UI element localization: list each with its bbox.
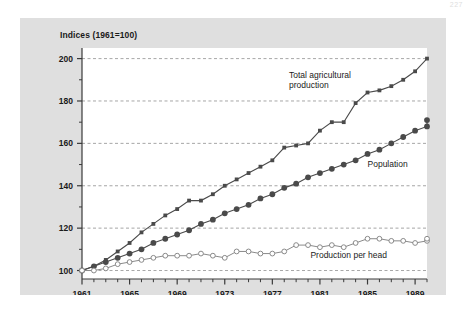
data-point	[330, 120, 334, 124]
data-point	[211, 192, 215, 196]
data-point	[115, 262, 120, 267]
data-point	[353, 241, 358, 246]
data-point	[127, 251, 133, 257]
x-tick-label-1977: 1977	[263, 289, 282, 295]
data-point	[317, 170, 323, 176]
data-point	[294, 243, 299, 248]
data-point	[199, 251, 204, 256]
y-tick-label-120: 120	[59, 223, 73, 233]
x-tick-label-1973: 1973	[215, 289, 234, 295]
data-point	[103, 266, 108, 271]
data-point	[425, 236, 430, 241]
data-point	[424, 124, 430, 130]
data-point	[174, 232, 180, 238]
data-point	[199, 199, 203, 203]
annotation-production-per-head: Production per head	[310, 250, 387, 260]
data-point	[293, 181, 299, 187]
data-point	[270, 158, 274, 162]
data-point	[163, 214, 167, 218]
x-tick-label-1989: 1989	[406, 289, 425, 295]
y-axis-ticks	[77, 59, 82, 271]
line-chart-plot: Total agriculturalproductionPopulationPr…	[20, 18, 446, 295]
data-point	[281, 185, 287, 191]
x-tick-label-1981: 1981	[310, 289, 329, 295]
page-number: 227	[450, 1, 463, 8]
data-point	[175, 207, 179, 211]
data-point	[127, 260, 132, 265]
x-tick-label-1969: 1969	[168, 289, 187, 295]
data-point	[425, 57, 429, 61]
data-point	[163, 253, 168, 258]
data-point	[366, 91, 370, 95]
data-point	[223, 184, 227, 188]
data-point	[210, 253, 215, 258]
data-point	[116, 250, 120, 254]
data-point	[329, 166, 335, 172]
data-point	[258, 251, 263, 256]
annotation-population: Population	[368, 159, 408, 169]
x-tick-label-1965: 1965	[120, 289, 139, 295]
data-point	[187, 199, 191, 203]
data-point	[80, 268, 85, 273]
data-point	[294, 144, 298, 148]
data-point	[234, 249, 239, 254]
data-point	[401, 238, 406, 243]
x-tick-label-1961: 1961	[73, 289, 92, 295]
data-point	[341, 162, 347, 168]
data-point	[354, 101, 358, 105]
data-point	[401, 78, 405, 82]
data-point	[187, 253, 192, 258]
data-point	[151, 222, 155, 226]
data-point	[388, 140, 394, 146]
data-point	[198, 221, 204, 227]
data-point	[151, 255, 156, 260]
data-point	[234, 206, 240, 212]
y-tick-label-200: 200	[59, 54, 73, 64]
data-point	[389, 84, 393, 88]
data-point	[282, 249, 287, 254]
data-point	[128, 241, 132, 245]
data-point	[318, 129, 322, 133]
data-point	[139, 246, 145, 252]
chart-panel: Indices (1961=100) Total agriculturalpro…	[20, 18, 446, 295]
figure-root: 227 Indices (1961=100) Total agricultura…	[0, 0, 471, 318]
data-point	[329, 243, 334, 248]
data-point	[377, 236, 382, 241]
data-point	[246, 249, 251, 254]
data-point	[210, 217, 216, 223]
data-point	[306, 243, 311, 248]
y-tick-label-100: 100	[59, 266, 73, 276]
data-point	[139, 258, 144, 263]
data-point	[400, 134, 406, 140]
data-point	[222, 210, 228, 216]
data-point	[305, 174, 311, 180]
data-point	[282, 146, 286, 150]
data-point	[270, 251, 275, 256]
data-point	[246, 202, 252, 208]
y-tick-label-160: 160	[59, 138, 73, 148]
data-point	[424, 117, 430, 123]
data-point	[186, 227, 192, 233]
data-point	[342, 120, 346, 124]
data-point	[365, 151, 371, 157]
data-point	[103, 259, 109, 265]
data-point	[115, 255, 121, 261]
data-point	[175, 253, 180, 258]
data-point	[306, 141, 310, 145]
x-axis-ticks	[82, 279, 427, 285]
data-point	[353, 157, 359, 163]
data-point	[222, 255, 227, 260]
data-point	[269, 191, 275, 197]
data-point	[235, 177, 239, 181]
data-point	[412, 128, 418, 134]
data-point	[140, 230, 144, 234]
data-point	[413, 69, 417, 73]
data-point	[150, 240, 156, 246]
data-point	[413, 241, 418, 246]
data-point	[162, 236, 168, 242]
y-axis-tick-labels: 100120140160180200	[59, 54, 73, 276]
y-tick-label-140: 140	[59, 181, 73, 191]
x-axis-tick-labels: 19611965196919731977198119851989	[73, 289, 425, 295]
data-point	[91, 268, 96, 273]
data-point	[377, 147, 383, 153]
